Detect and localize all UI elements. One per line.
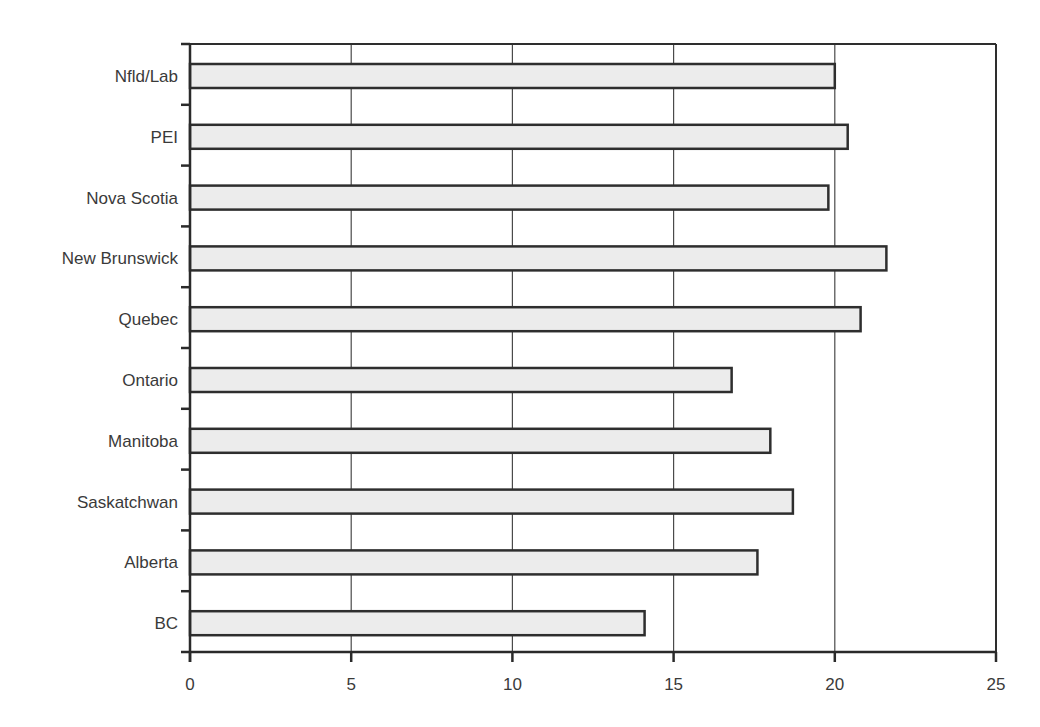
x-tick-label: 15 [664, 675, 683, 694]
bar-ontario [190, 368, 732, 392]
category-label: New Brunswick [62, 249, 179, 268]
x-tick-label: 0 [185, 675, 194, 694]
x-tick-label: 5 [346, 675, 355, 694]
bar-alberta [190, 550, 757, 574]
category-labels: Nfld/LabPEINova ScotiaNew BrunswickQuebe… [62, 67, 179, 633]
bar-new-brunswick [190, 246, 886, 270]
bar-quebec [190, 307, 861, 331]
category-label: Nova Scotia [86, 189, 178, 208]
category-label: BC [154, 614, 178, 633]
bar-pei [190, 125, 848, 149]
category-label: Alberta [124, 553, 178, 572]
category-label: Quebec [118, 310, 178, 329]
bar-manitoba [190, 429, 770, 453]
category-label: Nfld/Lab [115, 67, 178, 86]
bar-nova-scotia [190, 186, 828, 210]
x-tick-labels: 0510152025 [185, 675, 1005, 694]
bars [190, 64, 886, 635]
bar-nfld-lab [190, 64, 835, 88]
bar-chart: Nfld/LabPEINova ScotiaNew BrunswickQuebe… [0, 0, 1040, 727]
x-tick-label: 20 [825, 675, 844, 694]
category-label: Saskatchwan [77, 493, 178, 512]
bar-bc [190, 611, 645, 635]
category-label: Manitoba [108, 432, 178, 451]
category-label: PEI [151, 128, 178, 147]
x-tick-label: 10 [503, 675, 522, 694]
x-tick-label: 25 [987, 675, 1006, 694]
chart-canvas: Nfld/LabPEINova ScotiaNew BrunswickQuebe… [0, 0, 1040, 727]
bar-saskatchwan [190, 490, 793, 514]
category-label: Ontario [122, 371, 178, 390]
